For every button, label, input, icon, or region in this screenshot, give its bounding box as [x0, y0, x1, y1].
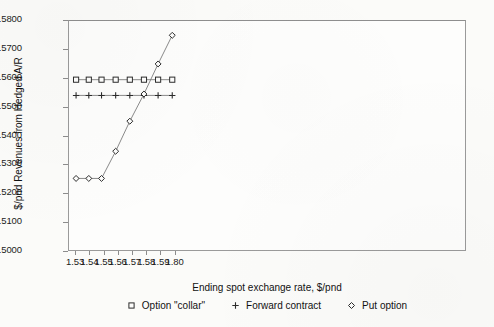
plot-canvas — [69, 21, 465, 250]
data-point-square — [127, 77, 132, 82]
x-axis-tick-mark — [175, 251, 176, 255]
legend-item: Forward contract — [231, 300, 321, 311]
data-point-diamond — [73, 175, 79, 181]
series-1 — [73, 92, 176, 98]
x-axis-tick-label: 1.80 — [151, 256, 199, 267]
data-point-plus — [73, 92, 79, 98]
y-axis-tick-mark — [63, 251, 68, 252]
data-point-square — [113, 77, 118, 82]
data-point-plus — [232, 302, 238, 308]
data-point-plus — [112, 92, 118, 98]
x-axis-tick-mark — [89, 251, 90, 255]
x-axis-tick-mark — [132, 251, 133, 255]
data-point-plus — [155, 92, 161, 98]
chart-figure: 1.50001.51001.52001.53001.54001.55001.56… — [0, 0, 494, 327]
legend-label: Put option — [362, 300, 407, 311]
legend-marker-square — [127, 301, 136, 310]
data-point-square — [129, 303, 134, 308]
legend-label: Forward contract — [246, 300, 321, 311]
legend-marker-diamond — [347, 301, 356, 310]
data-point-square — [86, 77, 91, 82]
data-point-diamond — [127, 118, 133, 124]
chart-legend: Option "collar"Forward contractPut optio… — [68, 300, 466, 311]
data-point-square — [73, 77, 78, 82]
legend-marker-plus — [231, 301, 240, 310]
data-point-diamond — [169, 32, 175, 38]
plot-area — [68, 20, 466, 251]
data-point-diamond — [155, 61, 161, 67]
data-point-diamond — [113, 148, 119, 154]
data-point-plus — [98, 92, 104, 98]
legend-item: Put option — [347, 300, 407, 311]
x-axis-tick-mark — [118, 251, 119, 255]
y-axis-tick-label: 1.5000 — [0, 244, 22, 255]
data-point-square — [99, 77, 104, 82]
x-axis-tick-mark — [104, 251, 105, 255]
data-point-square — [156, 77, 161, 82]
legend-item: Option "collar" — [127, 300, 205, 311]
data-point-diamond — [86, 175, 92, 181]
y-axis-title: $/pnd Revenues from Hedged A/R — [13, 29, 24, 239]
x-axis-tick-mark — [160, 251, 161, 255]
series-2 — [73, 32, 175, 181]
data-point-plus — [127, 92, 133, 98]
data-point-diamond — [141, 91, 147, 97]
data-point-plus — [169, 92, 175, 98]
series-line — [76, 35, 172, 178]
y-axis-tick-label: 1.5800 — [0, 13, 22, 24]
series-0 — [73, 77, 174, 82]
x-axis-title: Ending spot exchange rate, $/pnd — [68, 282, 466, 293]
data-point-diamond — [99, 175, 105, 181]
data-point-square — [170, 77, 175, 82]
legend-label: Option "collar" — [142, 300, 205, 311]
data-point-plus — [86, 92, 92, 98]
x-axis-tick-mark — [75, 251, 76, 255]
data-point-diamond — [349, 303, 355, 309]
x-axis-tick-mark — [146, 251, 147, 255]
data-point-square — [141, 77, 146, 82]
